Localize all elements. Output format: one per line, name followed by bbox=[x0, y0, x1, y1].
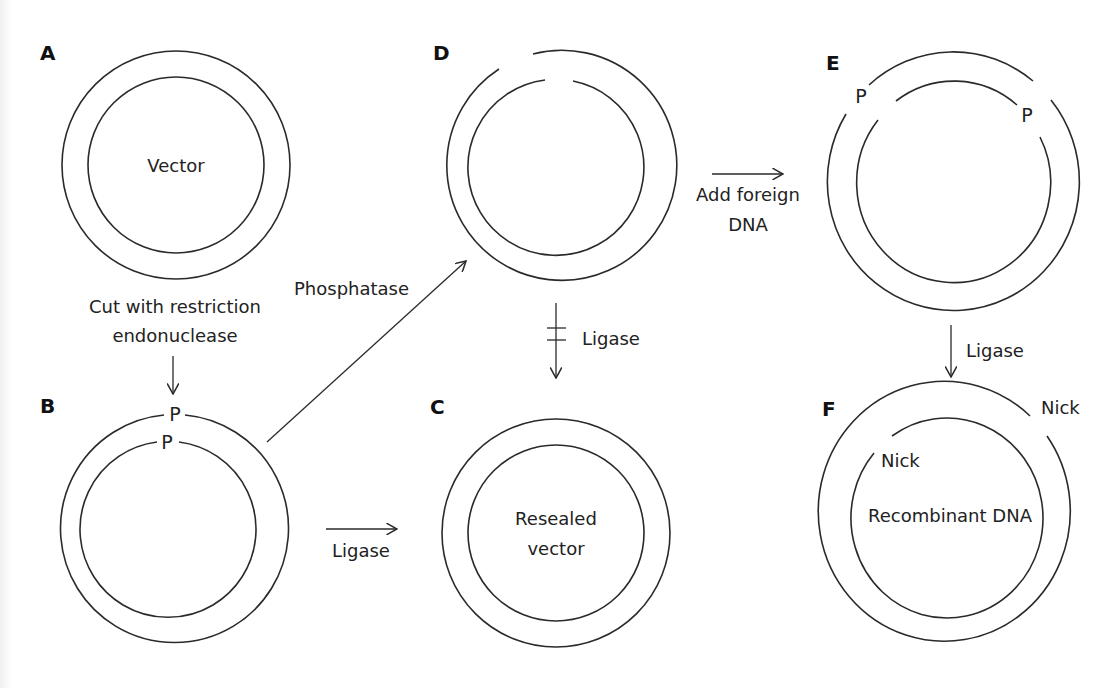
recombinant-dna-label: Recombinant DNA bbox=[868, 505, 1033, 526]
step-ligase-e-to-f: Ligase bbox=[951, 325, 1024, 377]
panel-label-a: A bbox=[40, 41, 56, 65]
resealed-inner-strand bbox=[468, 445, 644, 621]
panel-c: C Resealed vector bbox=[430, 395, 670, 647]
resealed-label-line2: vector bbox=[527, 538, 585, 559]
foreign-dna-outer-strand bbox=[869, 52, 1033, 85]
step-ligase-blocked: Ligase bbox=[547, 303, 640, 378]
step-add-foreign-dna: Add foreign DNA bbox=[696, 174, 800, 235]
add-foreign-label-line1: Add foreign bbox=[696, 184, 800, 205]
ligase-label-blocked: Ligase bbox=[582, 328, 640, 349]
vector-label: Vector bbox=[147, 155, 205, 176]
add-foreign-label-line2: DNA bbox=[728, 214, 768, 235]
recombinant-dna-diagram: A Vector Cut with restriction endonuclea… bbox=[0, 0, 1118, 688]
nick-label-outer: Nick bbox=[1041, 397, 1080, 418]
panel-label-c: C bbox=[430, 395, 445, 419]
ligase-label-b-to-c: Ligase bbox=[332, 540, 390, 561]
panel-a: A Vector bbox=[40, 41, 290, 279]
panel-d: D bbox=[433, 41, 677, 280]
ligase-label-e-to-f: Ligase bbox=[966, 340, 1024, 361]
panel-label-e: E bbox=[826, 51, 840, 75]
cut-label-line2: endonuclease bbox=[112, 325, 237, 346]
resealed-outer-strand bbox=[442, 419, 670, 647]
step-cut-restriction: Cut with restriction endonuclease bbox=[89, 296, 261, 394]
cut-vector-inner-strand bbox=[80, 442, 256, 617]
phosphate-mark-outer: P bbox=[169, 403, 180, 425]
step-ligase-b-to-c: Ligase bbox=[326, 529, 397, 561]
dephosphorylated-outer-strand bbox=[447, 50, 677, 280]
phosphate-mark-left: P bbox=[855, 85, 866, 107]
vector-outer-strand-e bbox=[827, 100, 1079, 311]
panel-b: B P P bbox=[40, 394, 289, 643]
phosphatase-label: Phosphatase bbox=[294, 278, 409, 299]
resealed-label-line1: Resealed bbox=[515, 508, 597, 529]
phosphate-mark-inner: P bbox=[161, 431, 172, 453]
panel-e: E P P bbox=[826, 51, 1079, 311]
panel-label-f: F bbox=[822, 397, 836, 421]
dephosphorylated-inner-strand bbox=[468, 80, 644, 255]
phosphate-mark-right: P bbox=[1021, 104, 1032, 126]
vector-inner-strand-e bbox=[857, 120, 1051, 283]
diagram-canvas: A Vector Cut with restriction endonuclea… bbox=[0, 0, 1118, 688]
cut-label-line1: Cut with restriction bbox=[89, 296, 261, 317]
panel-label-b: B bbox=[40, 394, 55, 418]
foreign-dna-inner-strand bbox=[896, 81, 1017, 105]
cut-vector-outer-strand bbox=[60, 415, 288, 643]
nick-label-inner: Nick bbox=[881, 450, 920, 471]
panel-label-d: D bbox=[433, 41, 450, 65]
panel-f: F Nick Nick Recombinant DNA bbox=[818, 381, 1080, 641]
